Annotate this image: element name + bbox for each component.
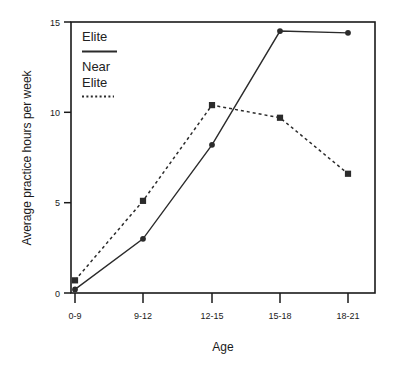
- data-point-marker: [345, 171, 351, 177]
- x-tick-label-4: 18-21: [336, 311, 359, 321]
- data-point-marker: [277, 115, 283, 121]
- y-tick-label-10: 10: [50, 108, 60, 118]
- x-axis-ticks: [75, 293, 348, 303]
- x-axis-tick-labels: 0-9 9-12 12-15 15-18 18-21: [68, 311, 359, 321]
- x-tick-label-0: 0-9: [68, 311, 81, 321]
- legend-label-elite-2: Elite: [82, 75, 107, 90]
- legend-label-near: Near: [82, 59, 111, 74]
- y-axis-title: Average practice hours per week: [20, 69, 34, 245]
- x-tick-label-2: 12-15: [200, 311, 223, 321]
- data-point-marker: [345, 30, 351, 36]
- x-tick-label-1: 9-12: [134, 311, 152, 321]
- y-tick-label-15: 15: [50, 18, 60, 28]
- chart-figure: 15 10 5 0 0-9 9-12 12-15 15-18 18-21 Ave…: [0, 0, 395, 370]
- practice-hours-line-chart: 15 10 5 0 0-9 9-12 12-15 15-18 18-21 Ave…: [0, 0, 395, 370]
- y-tick-label-5: 5: [55, 198, 60, 208]
- data-point-marker: [72, 277, 78, 283]
- data-point-marker: [72, 286, 78, 292]
- data-point-marker: [277, 28, 283, 34]
- y-axis-ticks: [64, 22, 71, 293]
- legend-label-elite: Elite: [82, 29, 107, 44]
- data-point-marker: [209, 102, 215, 108]
- y-tick-label-0: 0: [55, 289, 60, 299]
- data-point-marker: [140, 236, 146, 242]
- y-axis-tick-labels: 15 10 5 0: [50, 18, 60, 299]
- data-point-marker: [209, 142, 215, 148]
- x-axis-title: Age: [212, 340, 234, 354]
- data-point-marker: [140, 198, 146, 204]
- x-tick-label-3: 15-18: [268, 311, 291, 321]
